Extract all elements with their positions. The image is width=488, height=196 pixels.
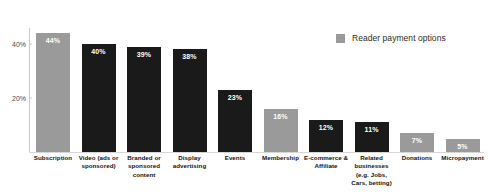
bar[interactable]: 23% [218,90,252,152]
bar[interactable]: 39% [127,47,161,152]
bar-group[interactable]: 5% [446,14,480,152]
category-label: Subscription [31,154,75,162]
bar-group[interactable]: 16% [264,14,298,152]
category-label: Micropayment [441,154,485,162]
y-tick-label: 20% [12,95,26,102]
bar-value-label: 39% [127,51,161,58]
bar-value-label: 23% [218,94,252,101]
bar[interactable]: 12% [309,120,343,152]
category-label: Events [213,154,257,162]
bar-group[interactable]: 40% [82,14,116,152]
bar-value-label: 40% [82,48,116,55]
bar-group[interactable]: 38% [173,14,207,152]
bar-value-label: 44% [36,37,70,44]
bar[interactable]: 44% [36,33,70,152]
bar-group[interactable]: 23% [218,14,252,152]
bar-value-label: 38% [173,53,207,60]
bar-value-label: 11% [355,126,389,133]
bar-chart: Reader payment options 40%20% 44%40%39%3… [0,0,488,196]
bar-series-container: 44%40%39%38%23%16%12%11%7%5% [29,14,484,152]
category-label: Branded or sponsored content [122,154,166,179]
y-tick-label: 40% [12,41,26,48]
bar[interactable]: 7% [400,133,434,152]
bar[interactable]: 40% [82,44,116,152]
bar-value-label: 5% [446,143,480,150]
bar[interactable]: 5% [446,139,480,153]
bar-group[interactable]: 12% [309,14,343,152]
category-label: Membership [259,154,303,162]
category-label: Display advertising [168,154,212,171]
bar[interactable]: 38% [173,49,207,152]
category-label: E-commerce & Affiliate [304,154,348,171]
plot-area: 40%20% 44%40%39%38%23%16%12%11%7%5% Subs… [29,14,484,152]
bar-value-label: 12% [309,124,343,131]
category-label: Related businesses (e.g. Jobs, Cars, bet… [350,154,394,187]
bar-group[interactable]: 39% [127,14,161,152]
category-label: Video (ads or sponsored) [77,154,121,171]
bar-value-label: 7% [400,137,434,144]
bar-group[interactable]: 7% [400,14,434,152]
bar[interactable]: 16% [264,109,298,152]
category-label: Donations [395,154,439,162]
bar[interactable]: 11% [355,122,389,152]
bar-group[interactable]: 44% [36,14,70,152]
bar-value-label: 16% [264,113,298,120]
bar-group[interactable]: 11% [355,14,389,152]
x-axis-baseline [29,152,484,153]
